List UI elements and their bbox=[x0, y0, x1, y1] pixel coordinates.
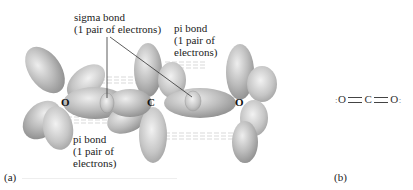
sigma-label-line2: (1 pair of electrons) bbox=[74, 23, 161, 35]
pi-bond-bottom-label: pi bond (1 pair of electrons) bbox=[73, 133, 116, 169]
sigma-label-line1: sigma bond bbox=[74, 11, 161, 23]
lewis-structure: :OCO: bbox=[335, 93, 402, 105]
lewis-center-c: C bbox=[364, 93, 372, 105]
pi-bond-top-label: pi bond (1 pair of electrons) bbox=[174, 22, 217, 58]
sigma-bond-label: sigma bond (1 pair of electrons) bbox=[74, 11, 161, 35]
atom-center-c: C bbox=[147, 96, 155, 108]
pi-bottom-line2: (1 pair of bbox=[73, 145, 116, 157]
carbon-orbitals bbox=[102, 43, 236, 163]
lewis-left-o: O bbox=[338, 93, 346, 105]
pi-bottom-line3: electrons) bbox=[73, 157, 116, 169]
panel-b-tag: (b) bbox=[334, 171, 347, 183]
atom-left-o: O bbox=[61, 96, 70, 108]
lewis-double-bond-right bbox=[374, 97, 388, 103]
pi-bottom-line1: pi bond bbox=[73, 133, 116, 145]
panel-a-tag: (a) bbox=[4, 171, 16, 183]
pi-top-line2: (1 pair of bbox=[174, 34, 217, 46]
atom-right-o: O bbox=[235, 96, 244, 108]
pi-top-line3: electrons) bbox=[174, 46, 217, 58]
pi-top-line1: pi bond bbox=[174, 22, 217, 34]
lewis-double-bond-left bbox=[348, 97, 362, 103]
lewis-right-o: O bbox=[390, 93, 398, 105]
panel-a-baseline bbox=[22, 178, 177, 179]
